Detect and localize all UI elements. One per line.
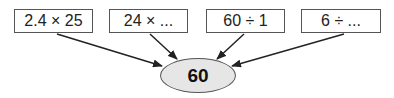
expression-box-1: 2.4 × 25 bbox=[14, 9, 93, 33]
expression-label: 6 ÷ ... bbox=[321, 12, 361, 30]
expression-box-4: 6 ÷ ... bbox=[301, 9, 381, 33]
expression-box-2: 24 × ... bbox=[109, 9, 188, 33]
expression-label: 60 ÷ 1 bbox=[223, 12, 267, 30]
arrow-2 bbox=[150, 34, 177, 59]
expression-label: 24 × ... bbox=[124, 12, 173, 30]
expression-box-3: 60 ÷ 1 bbox=[206, 9, 285, 33]
target-value: 60 bbox=[187, 65, 208, 87]
expression-label: 2.4 × 25 bbox=[24, 12, 82, 30]
arrow-1 bbox=[57, 34, 162, 66]
arrow-4 bbox=[232, 34, 344, 66]
arrow-3 bbox=[217, 34, 244, 59]
target-ellipse: 60 bbox=[160, 58, 236, 93]
